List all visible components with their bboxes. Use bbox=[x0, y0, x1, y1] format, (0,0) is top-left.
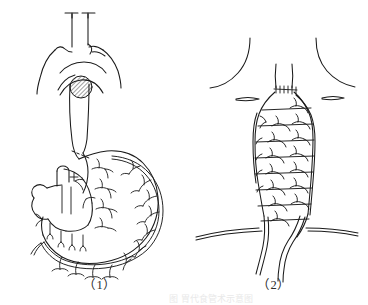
figure-2-caption: （2） bbox=[252, 274, 296, 293]
duodenal-vessel-stubs bbox=[62, 173, 84, 214]
greater-curvature-arcade bbox=[41, 156, 163, 269]
pedicle-vessels bbox=[256, 214, 308, 282]
figure-2-group bbox=[196, 38, 358, 282]
resection-dashed-line bbox=[72, 151, 89, 158]
omental-line bbox=[31, 242, 44, 255]
neck-contour-right bbox=[316, 38, 355, 87]
figure-1-caption: （1） bbox=[78, 274, 122, 293]
diaphragm-line bbox=[196, 228, 358, 240]
clavicle-left bbox=[236, 98, 259, 101]
vagus-branch bbox=[88, 44, 105, 56]
clavicle-right bbox=[322, 97, 344, 100]
anastomosis-suture-line bbox=[274, 86, 297, 94]
transverse-vessel-rungs bbox=[255, 98, 314, 226]
cervical-esophagus-stump bbox=[275, 64, 293, 88]
figure-footer-text: 图 胃代食管术示意图 bbox=[96, 292, 326, 305]
esophagus-upper-segment bbox=[65, 13, 95, 47]
neck-contour-left bbox=[210, 38, 250, 88]
figure-1-group bbox=[31, 13, 163, 279]
